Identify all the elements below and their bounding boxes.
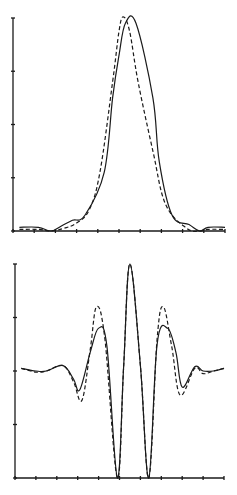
dashed-series-line xyxy=(19,17,225,231)
bottom-plot xyxy=(13,264,224,480)
chart-canvas xyxy=(0,0,237,495)
top-plot xyxy=(11,16,225,233)
solid-series-line xyxy=(21,264,224,478)
dashed-series-line xyxy=(21,264,224,478)
solid-series-line xyxy=(19,16,225,231)
